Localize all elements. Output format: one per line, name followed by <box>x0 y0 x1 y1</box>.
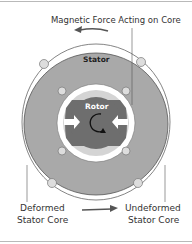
deformed-label-1: Deformed <box>20 203 65 214</box>
rotor-label: Rotor <box>85 101 108 112</box>
arrow-right-icon <box>110 205 118 212</box>
force-label: Magnetic Force Acting on Core <box>51 15 181 26</box>
arrow-left-icon <box>74 26 82 33</box>
stator-label: Stator <box>83 54 109 65</box>
deformed-label-2: Stator Core <box>17 215 68 226</box>
undeformed-label-2: Stator Core <box>128 215 179 226</box>
undeformed-label-1: Undeformed <box>125 203 181 214</box>
